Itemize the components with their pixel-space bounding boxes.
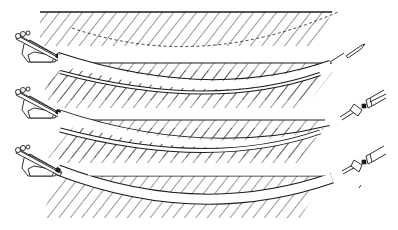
upper-cover	[88, 168, 330, 175]
drill-bit-icon	[330, 44, 365, 62]
soil-upper-band	[40, 12, 332, 46]
hdd-process-diagram	[0, 0, 398, 230]
